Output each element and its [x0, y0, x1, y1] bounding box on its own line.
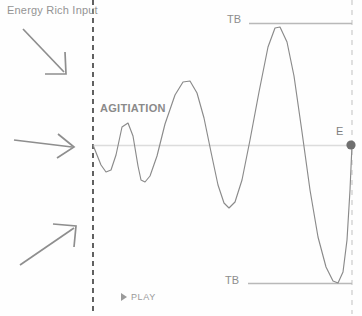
play-button-label: PLAY — [131, 292, 156, 302]
end-point-label: E — [336, 126, 343, 137]
agitiation-waveform — [93, 27, 352, 283]
play-button[interactable]: PLAY — [118, 290, 159, 304]
agitiation-label: AGITIATION — [100, 103, 166, 114]
threshold-top-label: TB — [227, 14, 241, 25]
arrow-energy-input-3 — [20, 224, 76, 265]
energy-rich-input-label: Energy Rich Input — [7, 5, 98, 16]
arrow-energy-input-2 — [14, 134, 74, 158]
diagram-canvas: Energy Rich Input AGITIATION TB TB E PLA… — [0, 0, 362, 316]
threshold-bottom-label: TB — [225, 275, 239, 286]
play-triangle-icon — [121, 293, 127, 301]
wave-diagram-svg — [0, 0, 362, 316]
arrow-energy-input-1 — [23, 29, 66, 74]
end-point-dot[interactable] — [346, 140, 355, 149]
